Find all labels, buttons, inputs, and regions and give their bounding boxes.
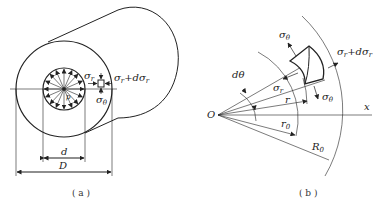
- panel-b-sector: O x dθ σθ σr+dσr σr σθ r r0 R0 ( b ): [207, 16, 373, 198]
- stress-diagram: σr σr+dσr σθ p d D ( a ) O x d: [0, 0, 380, 204]
- stress-element: [98, 80, 104, 87]
- label-sigma-theta-top: σθ: [279, 29, 291, 42]
- center-dot: [62, 87, 66, 91]
- panel-a-cylinder: σr σr+dσr σθ p d D ( a ): [10, 7, 178, 198]
- label-pressure: p: [66, 93, 71, 101]
- cylinder-back-arc: [118, 7, 178, 118]
- label-r: r: [285, 94, 291, 105]
- label-d: d: [61, 146, 67, 157]
- label-R0: R0: [311, 141, 325, 154]
- cylinder-top-edge: [48, 10, 118, 42]
- ray-R0: [218, 115, 329, 160]
- label-sigma-r: σr: [273, 82, 284, 95]
- ray-lower-element: [218, 80, 325, 115]
- caption-b: ( b ): [299, 188, 318, 198]
- label-x: x: [364, 101, 370, 112]
- sigma-theta-top-arrow: [288, 43, 296, 56]
- label-r0: r0: [281, 118, 291, 131]
- sigma-r-plus-arrow: [328, 63, 338, 68]
- label-sigma-r-plus-dsigma: σr+dσr: [337, 46, 373, 59]
- sigma-theta-bottom-arrow: [314, 86, 318, 99]
- label-sigma-r-plus-dsigma: σr+dσr: [114, 72, 150, 85]
- arc-dtheta-marker: [243, 89, 246, 93]
- caption-a: ( a ): [72, 188, 90, 198]
- arc-r0: [258, 52, 298, 136]
- label-dtheta: dθ: [232, 69, 244, 80]
- label-origin: O: [207, 109, 215, 120]
- ray-r: [218, 101, 307, 115]
- label-D: D: [58, 160, 67, 171]
- label-sigma-theta-bottom: σθ: [322, 91, 334, 104]
